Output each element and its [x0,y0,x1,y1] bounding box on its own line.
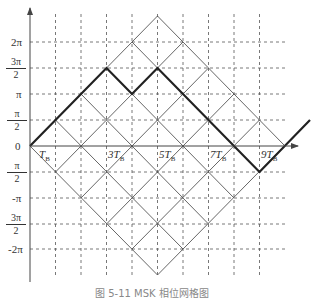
y-label-den: 2 [7,121,27,132]
y-label-neg-pi-over-2: π 2 [7,161,27,184]
x-label-3tb: 3TB [108,149,124,163]
vertical-grid-lines [56,14,260,276]
x-label-5tb: 5TB [159,149,175,163]
x-label-sub: B [273,155,278,163]
x-label-7tb: 7TB [210,149,226,163]
y-label-den: 2 [6,69,26,80]
y-label-num: π [7,161,27,173]
y-label-2pi: 2π [11,37,22,48]
y-label-pi: π [16,89,22,100]
y-label-pi-over-2: π 2 [7,109,27,132]
y-label-3pi-over-2: 3π 2 [6,57,26,80]
x-label-sub: B [171,155,176,163]
y-label-num: 3π [6,213,26,225]
y-label-neg-2pi: -2π [8,244,23,255]
y-label-num: π [7,109,27,121]
x-label-sub: B [222,155,227,163]
x-label-9tb: 9TB [261,149,277,163]
y-label-neg-3pi-over-2: 3π 2 [6,213,26,236]
y-label-num: 3π [6,57,26,69]
y-label-neg-pi: -π [12,193,21,204]
x-label-sub: B [45,155,50,163]
x-label-tb: TB [39,149,50,163]
x-label-sub: B [120,155,125,163]
y-label-den: 2 [6,225,26,236]
y-label-den: 2 [7,173,27,184]
figure-caption: 图 5-11 MSK 相位网格图 [95,285,209,300]
y-label-zero: 0 [15,141,21,152]
